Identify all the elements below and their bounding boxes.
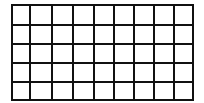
grid-cell xyxy=(12,82,30,100)
grid-cell xyxy=(114,63,134,82)
grid-cell xyxy=(12,44,30,63)
grid-cell xyxy=(94,25,114,44)
grid-cell xyxy=(134,44,154,63)
grid-cell xyxy=(174,25,193,44)
grid-cell xyxy=(174,5,193,25)
grid-cell xyxy=(30,63,52,82)
grid-cell xyxy=(114,44,134,63)
grid-cell xyxy=(52,25,73,44)
grid-cell xyxy=(94,5,114,25)
grid-cell xyxy=(30,44,52,63)
grid-cell xyxy=(154,63,174,82)
grid-cell xyxy=(134,63,154,82)
grid-cell xyxy=(12,5,30,25)
grid-cell xyxy=(134,82,154,100)
grid-cell xyxy=(154,44,174,63)
grid-cell xyxy=(134,25,154,44)
grid-cell xyxy=(52,82,73,100)
grid-cell xyxy=(73,82,94,100)
grid-cell xyxy=(73,5,94,25)
grid-cell xyxy=(174,44,193,63)
grid-cell xyxy=(52,5,73,25)
grid-cell xyxy=(114,5,134,25)
grid-cell xyxy=(30,25,52,44)
grid-cell xyxy=(52,44,73,63)
grid-cell xyxy=(154,25,174,44)
grid-diagram xyxy=(0,0,204,103)
grid-cell xyxy=(52,63,73,82)
grid-cell xyxy=(94,44,114,63)
grid-cell xyxy=(154,82,174,100)
grid-cell xyxy=(114,82,134,100)
grid-cell xyxy=(174,82,193,100)
grid-cell xyxy=(73,44,94,63)
grid-cell xyxy=(73,63,94,82)
grid-cell xyxy=(12,25,30,44)
grid-cell xyxy=(114,25,134,44)
grid-cell xyxy=(154,5,174,25)
grid-cell xyxy=(134,5,154,25)
grid-cell xyxy=(73,25,94,44)
grid-cell xyxy=(94,82,114,100)
grid-cell xyxy=(12,63,30,82)
grid-cell xyxy=(30,82,52,100)
grid-cell xyxy=(174,63,193,82)
grid-cell xyxy=(30,5,52,25)
grid-cell xyxy=(94,63,114,82)
